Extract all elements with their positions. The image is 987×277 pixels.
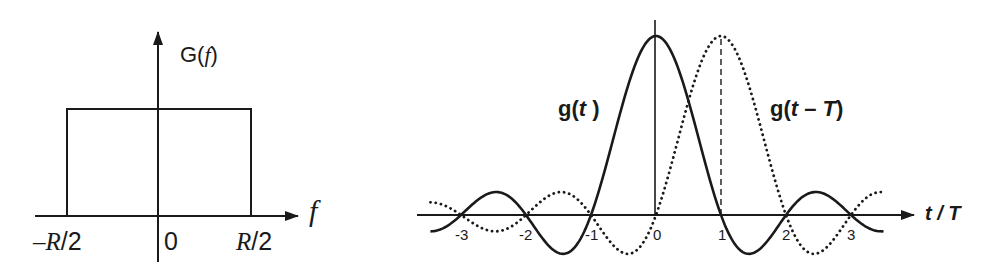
diagram-canvas: G(f) f –R/2 0 R/2 g(t ) g(t – T) t / T -… xyxy=(0,0,987,277)
g-of-t-minus-T-curve xyxy=(430,36,883,254)
tick-neg-r-half: –R/2 xyxy=(33,229,82,254)
tick-label-3: 3 xyxy=(847,227,855,242)
g-of-t-label: g(t ) xyxy=(558,98,600,120)
tick-text: /2 xyxy=(61,227,82,255)
label-text: g( xyxy=(770,96,791,121)
tick-label-neg3: -3 xyxy=(455,227,468,242)
label-text: ) xyxy=(586,96,599,121)
label-var: T xyxy=(823,96,836,121)
label-var: T xyxy=(948,202,960,224)
minus-sign: – xyxy=(33,228,46,255)
tick-label-2: 2 xyxy=(782,227,790,242)
tick-label-neg1: -1 xyxy=(585,227,598,242)
tick-label-neg2: -2 xyxy=(519,227,532,242)
tick-text: /2 xyxy=(251,227,272,255)
label-var: t xyxy=(579,96,586,121)
f-axis-label: f xyxy=(309,196,317,226)
tick-zero: 0 xyxy=(164,229,178,254)
label-text: – xyxy=(798,96,822,121)
label-text: ) xyxy=(836,96,843,121)
tick-var: R xyxy=(46,228,61,255)
tick-label-0: 0 xyxy=(653,227,661,242)
label-var: t xyxy=(925,202,932,224)
pulse-panel xyxy=(417,20,914,254)
g-of-t-minus-T-label: g(t – T) xyxy=(770,98,843,120)
tick-pos-r-half: R/2 xyxy=(236,229,272,254)
label-var: t xyxy=(791,96,798,121)
g-of-t-curve xyxy=(430,36,883,254)
label-text: G( xyxy=(180,42,204,67)
tick-label-1: 1 xyxy=(718,227,726,242)
t-over-T-axis-label: t / T xyxy=(925,203,961,223)
label-text: ) xyxy=(211,42,218,67)
diagram-svg xyxy=(0,0,987,277)
label-text: / xyxy=(932,202,949,224)
label-text: g( xyxy=(558,96,579,121)
tick-var: R xyxy=(236,228,251,255)
g-of-f-label: G(f) xyxy=(180,44,218,66)
